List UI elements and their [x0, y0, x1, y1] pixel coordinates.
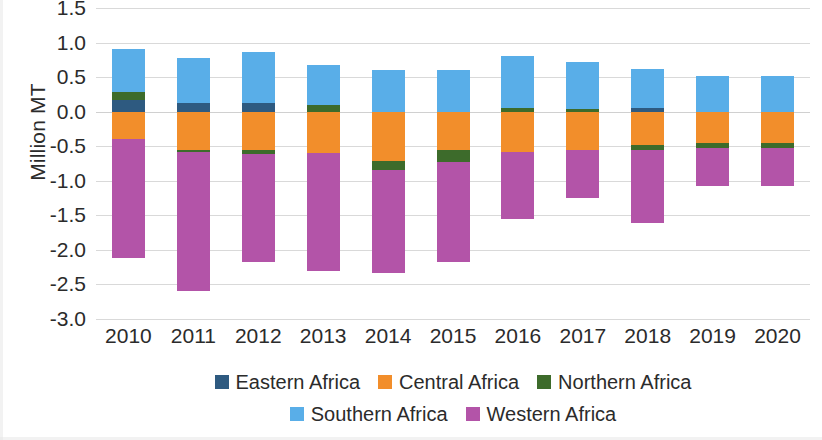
bar-segment — [242, 52, 275, 102]
bar-segment — [631, 69, 664, 108]
bar-segment — [307, 65, 340, 105]
y-axis-tick-label: -3.0 — [50, 307, 86, 331]
x-axis-tick-label: 2015 — [430, 324, 477, 348]
legend-swatch-icon — [215, 375, 229, 389]
legend-row: Eastern AfricaCentral AfricaNorthern Afr… — [96, 366, 810, 398]
x-axis-tick-label: 2020 — [754, 324, 801, 348]
chart-figure: Million MT 1.51.00.50.0-0.5-1.0-1.5-2.0-… — [0, 0, 822, 440]
bar-group — [761, 8, 794, 319]
legend-item[interactable]: Southern Africa — [290, 403, 448, 426]
bar-group — [112, 8, 145, 319]
y-axis-tick-label: 0.5 — [57, 65, 86, 89]
bar-segment — [112, 92, 145, 100]
x-axis-tick-label: 2019 — [689, 324, 736, 348]
bar-segment — [696, 112, 729, 143]
bar-segment — [242, 154, 275, 262]
legend-item[interactable]: Northern Africa — [537, 371, 691, 394]
bar-segment — [242, 112, 275, 151]
bar-segment — [696, 148, 729, 186]
gridline — [96, 319, 810, 320]
bar-group — [696, 8, 729, 319]
legend-label: Eastern Africa — [236, 371, 361, 394]
x-axis-tick-label: 2014 — [365, 324, 412, 348]
x-axis-tick-label: 2017 — [559, 324, 606, 348]
bar-segment — [566, 150, 599, 198]
bar-segment — [307, 153, 340, 270]
bar-segment — [631, 150, 664, 223]
bar-segment — [566, 62, 599, 109]
legend-swatch-icon — [290, 407, 304, 421]
x-axis-tick-label: 2012 — [235, 324, 282, 348]
x-axis-tick-label: 2018 — [624, 324, 671, 348]
legend-item[interactable]: Central Africa — [378, 371, 519, 394]
bar-segment — [566, 112, 599, 150]
bar-segment — [112, 49, 145, 93]
x-axis-tick-label: 2016 — [495, 324, 542, 348]
bar-segment — [307, 105, 340, 112]
bar-group — [566, 8, 599, 319]
x-axis-tick-label: 2013 — [300, 324, 347, 348]
y-axis-tick-label: 0.0 — [57, 100, 86, 124]
bar-group — [501, 8, 534, 319]
y-axis-tick-label: -1.0 — [50, 169, 86, 193]
bar-segment — [112, 139, 145, 259]
bar-segment — [631, 112, 664, 145]
legend-item[interactable]: Eastern Africa — [215, 371, 361, 394]
bar-segment — [177, 58, 210, 103]
bar-group — [177, 8, 210, 319]
bar-segment — [177, 112, 210, 150]
legend-swatch-icon — [537, 375, 551, 389]
bar-group — [307, 8, 340, 319]
chart-legend: Eastern AfricaCentral AfricaNorthern Afr… — [96, 366, 810, 430]
y-axis-tick-label: -1.5 — [50, 203, 86, 227]
bar-segment — [372, 70, 405, 111]
legend-swatch-icon — [466, 407, 480, 421]
legend-label: Northern Africa — [558, 371, 691, 394]
bar-segment — [307, 112, 340, 153]
bar-segment — [696, 76, 729, 112]
bar-segment — [112, 100, 145, 112]
bar-segment — [501, 112, 534, 152]
bar-segment — [437, 150, 470, 162]
bar-group — [631, 8, 664, 319]
bar-segment — [501, 152, 534, 219]
y-axis-tick-label: 1.0 — [57, 31, 86, 55]
bar-segment — [177, 152, 210, 292]
bar-group — [437, 8, 470, 319]
legend-label: Central Africa — [399, 371, 519, 394]
y-axis-tick-label: -0.5 — [50, 134, 86, 158]
bar-segment — [761, 76, 794, 112]
legend-label: Western Africa — [487, 403, 617, 426]
bar-segment — [372, 112, 405, 162]
y-axis-tick-label: -2.0 — [50, 238, 86, 262]
bar-segment — [761, 112, 794, 143]
bar-group — [372, 8, 405, 319]
x-axis-tick-label: 2010 — [105, 324, 152, 348]
bar-segment — [242, 103, 275, 112]
bar-series-container — [96, 8, 810, 319]
bar-segment — [112, 112, 145, 139]
bar-segment — [501, 56, 534, 108]
bar-segment — [437, 162, 470, 262]
bar-segment — [372, 170, 405, 274]
bar-segment — [177, 103, 210, 111]
bar-segment — [761, 148, 794, 186]
y-axis-tick-label: -2.5 — [50, 272, 86, 296]
bar-segment — [437, 70, 470, 111]
x-axis-tick-label: 2011 — [171, 324, 216, 348]
bar-segment — [372, 161, 405, 169]
y-axis-tick-labels: 1.51.00.50.0-0.5-1.0-1.5-2.0-2.5-3.0 — [0, 8, 92, 319]
y-axis-tick-label: 1.5 — [57, 0, 86, 20]
bar-segment — [437, 112, 470, 150]
legend-item[interactable]: Western Africa — [466, 403, 617, 426]
legend-swatch-icon — [378, 375, 392, 389]
plot-area — [96, 8, 810, 319]
bar-group — [242, 8, 275, 319]
x-axis-tick-labels: 2010201120122013201420152016201720182019… — [96, 324, 810, 354]
legend-row: Southern AfricaWestern Africa — [96, 398, 810, 430]
legend-label: Southern Africa — [311, 403, 448, 426]
